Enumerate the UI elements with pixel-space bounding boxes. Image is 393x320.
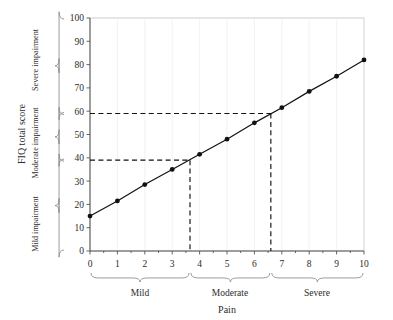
x-band-label-mild: Mild [131, 288, 150, 298]
data-point [197, 152, 202, 157]
y-band-label-severe: Severe impairment [31, 28, 40, 91]
x-tick-label: 3 [170, 259, 175, 269]
x-tick-label: 7 [279, 259, 284, 269]
x-tick-label: 0 [88, 259, 93, 269]
data-point [279, 105, 284, 110]
data-point [142, 182, 147, 187]
x-axis-title: Pain [218, 304, 236, 315]
x-tick-label: 8 [307, 259, 312, 269]
x-brace-moderate [191, 273, 270, 282]
data-point [252, 120, 257, 125]
y-tick-label: 80 [75, 60, 85, 70]
x-axis-ticks: 012345678910 [88, 251, 369, 269]
y-brace-severe [55, 12, 64, 120]
y-band-label-mild: Mild impairment [31, 195, 40, 251]
y-axis-ticks: 0102030405060708090100 [70, 13, 90, 256]
y-axis-title: FIQ total score [16, 103, 27, 164]
data-point [225, 137, 230, 142]
y-band-label-moderate: Moderate impairment [31, 107, 40, 179]
y-tick-label: 60 [75, 107, 85, 117]
x-band-label-severe: Severe [304, 288, 330, 298]
data-point [307, 89, 312, 94]
gridlines [117, 18, 364, 251]
chart-canvas: 0102030405060708090100 012345678910 FIQ … [0, 0, 393, 320]
x-tick-label: 6 [252, 259, 257, 269]
y-tick-label: 10 [75, 223, 85, 233]
y-tick-label: 40 [75, 153, 85, 163]
x-tick-label: 4 [197, 259, 202, 269]
y-tick-label: 70 [75, 83, 85, 93]
data-point [362, 58, 367, 63]
data-point [170, 167, 175, 172]
y-tick-label: 50 [75, 130, 85, 140]
x-tick-label: 5 [225, 259, 230, 269]
y-axis-band-braces [55, 12, 64, 257]
x-brace-severe [272, 273, 363, 282]
y-tick-label: 20 [75, 200, 85, 210]
y-tick-label: 100 [70, 13, 85, 23]
fiq-pain-line-chart: 0102030405060708090100 012345678910 FIQ … [0, 0, 393, 320]
data-point [115, 199, 120, 204]
data-point [334, 74, 339, 79]
x-band-label-moderate: Moderate [212, 288, 248, 298]
y-tick-label: 30 [75, 177, 85, 187]
x-axis-band-braces [91, 273, 363, 282]
y-tick-label: 90 [75, 37, 85, 47]
x-tick-label: 2 [142, 259, 147, 269]
x-brace-mild [91, 273, 189, 282]
x-tick-label: 10 [359, 259, 369, 269]
x-tick-label: 9 [334, 259, 339, 269]
y-brace-mild [55, 154, 64, 257]
x-tick-label: 1 [115, 259, 120, 269]
y-tick-label: 0 [79, 246, 84, 256]
data-point [88, 214, 93, 219]
